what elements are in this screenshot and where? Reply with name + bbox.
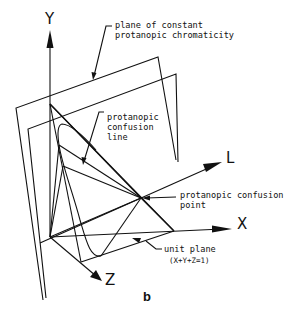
outer-plane (16, 57, 176, 300)
ray-origin-locus-2 (50, 166, 63, 237)
z-axis (50, 237, 96, 276)
diagram-canvas: Y X Z L plane of constant protanopic chr… (0, 0, 295, 313)
unit-plane-annotation-line-2: (X+Y+Z=1) (169, 256, 210, 265)
unit-plane-edge-xz (81, 231, 174, 262)
l-axis-arrowhead (203, 162, 222, 172)
confusion-line-leader-arrowhead (82, 157, 87, 165)
confusion-point-annotation-line-2: point (180, 200, 206, 210)
plane-annotation-line-2: protanopic chromaticity (115, 30, 234, 40)
chromaticity-planes (16, 57, 178, 300)
ray-cp-x (141, 198, 174, 231)
confusion-point-leader (146, 197, 176, 198)
x-axis-label: X (237, 215, 247, 233)
y-axis-arrowhead (47, 30, 54, 48)
x-axis-arrowhead (212, 226, 232, 233)
confusion-point-annotation-line-1: protanopic confusion (180, 190, 283, 200)
plane-annotation-line-1: plane of constant (115, 20, 203, 30)
ray-origin-locus-1 (50, 145, 59, 237)
confusion-line-annotation-line-2: confusion (107, 122, 154, 132)
ray-locus-cp-2 (63, 166, 141, 198)
unit-plane-edge-zy (50, 104, 81, 262)
l-axis-label: L (226, 149, 235, 167)
y-axis-label: Y (44, 10, 55, 28)
unit-plane-leader (146, 241, 162, 249)
confusion-line-leader (84, 112, 104, 161)
confusion-line-annotation-line-3: line (107, 132, 128, 142)
panel-label: b (143, 289, 151, 304)
unit-plane-annotation-line-1: unit plane (164, 244, 216, 254)
plane-leader (94, 26, 112, 76)
z-axis-label: Z (105, 271, 115, 289)
z-axis-arrowhead (90, 270, 102, 281)
confusion-line-annotation-line-1: protanopic (107, 112, 159, 122)
